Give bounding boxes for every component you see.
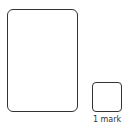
marks-label: 1 mark — [88, 115, 126, 125]
working-area-box[interactable] — [7, 9, 78, 112]
answer-box[interactable] — [92, 82, 122, 112]
